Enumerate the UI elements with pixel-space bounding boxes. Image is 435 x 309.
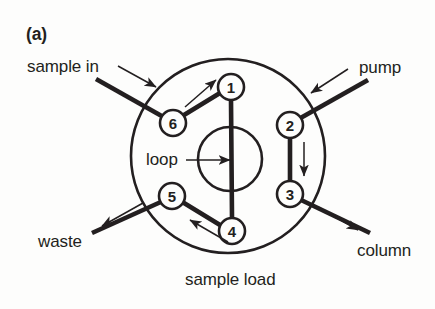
port-4-number: 4: [228, 223, 237, 240]
column-label: column: [357, 242, 411, 260]
sample-in-label: sample in: [27, 58, 99, 76]
panel-label: (a): [26, 25, 47, 43]
sample-in-tube: [96, 79, 167, 119]
channel-1-4: [231, 100, 232, 218]
port-2: 2: [277, 112, 303, 138]
flow-arrow-pump-icon: [311, 69, 348, 93]
port-6: 6: [160, 110, 186, 136]
port-1-number: 1: [227, 79, 235, 96]
port-3-number: 3: [286, 186, 294, 203]
flow-arrow-column-icon: [318, 207, 358, 230]
port-2-number: 2: [286, 117, 294, 134]
valve-diagram-svg: 1 2 3 4 5 6: [0, 0, 435, 309]
port-6-number: 6: [169, 115, 177, 132]
port-4: 4: [219, 218, 245, 244]
port-1: 1: [218, 74, 244, 100]
figure-container: 1 2 3 4 5 6: [0, 0, 435, 309]
channel-4-5: [184, 203, 220, 225]
loop-label: loop: [146, 151, 178, 169]
port-5-number: 5: [168, 188, 176, 205]
waste-label: waste: [38, 233, 82, 251]
port-5: 5: [159, 183, 185, 209]
sample-load-caption: sample load: [185, 271, 276, 289]
port-3: 3: [277, 181, 303, 207]
pump-label: pump: [359, 59, 401, 77]
flow-arrow-sample-in-icon: [118, 66, 156, 87]
